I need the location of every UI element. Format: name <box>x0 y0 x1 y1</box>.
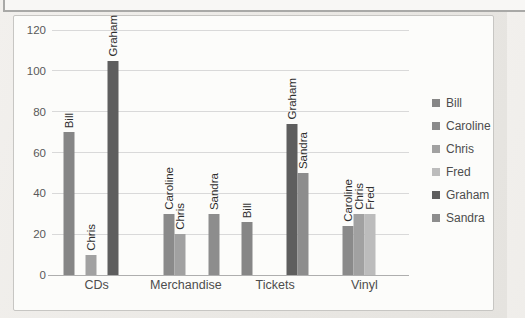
slot-chris-merchandise: Chris <box>175 30 186 275</box>
bar-bill-cds <box>63 132 74 275</box>
y-axis-label-120: 120 <box>16 22 46 38</box>
bar-bill-tickets <box>242 222 253 275</box>
legend-item-sandra: Sandra <box>432 211 491 225</box>
bar-chris-vinyl <box>353 214 364 275</box>
legend-label-graham: Graham <box>446 188 489 202</box>
legend-swatch-bill <box>432 99 440 107</box>
slot-graham-vinyl <box>376 30 387 275</box>
slot-chris-vinyl: Chris <box>353 30 364 275</box>
bar-groups: BillChrisGrahamCarolineChrisSandraBillGr… <box>52 30 409 275</box>
slot-bill-merchandise <box>152 30 163 275</box>
chart-frame[interactable]: 020406080100120 BillChrisGrahamCarolineC… <box>13 15 494 311</box>
plot-area: BillChrisGrahamCarolineChrisSandraBillGr… <box>52 30 409 275</box>
bar-label-graham-cds: Graham <box>107 15 120 57</box>
bar-label-fred-vinyl: Fred <box>363 186 376 210</box>
bar-chris-cds <box>86 255 97 275</box>
x-axis-label-vinyl: Vinyl <box>320 278 409 292</box>
legend-swatch-sandra <box>432 214 440 222</box>
category-group-merchandise: CarolineChrisSandra <box>141 30 230 275</box>
bar-caroline-vinyl <box>342 226 353 275</box>
legend-item-chris: Chris <box>432 142 491 156</box>
slot-fred-tickets <box>275 30 286 275</box>
legend-item-fred: Fred <box>432 165 491 179</box>
slot-chris-tickets <box>264 30 275 275</box>
bar-sandra-tickets <box>298 173 309 275</box>
bar-label-chris-cds: Chris <box>85 224 98 251</box>
slot-bill-cds: Bill <box>63 30 74 275</box>
legend-swatch-graham <box>432 191 440 199</box>
cropped-element-border <box>3 0 525 12</box>
slot-caroline-tickets <box>253 30 264 275</box>
slot-sandra-cds <box>119 30 130 275</box>
slot-caroline-merchandise: Caroline <box>164 30 175 275</box>
legend-label-caroline: Caroline <box>446 119 491 133</box>
bar-sandra-merchandise <box>208 214 219 275</box>
category-group-tickets: BillGrahamSandra <box>231 30 320 275</box>
legend-swatch-caroline <box>432 122 440 130</box>
y-axis-label-0: 0 <box>16 267 46 283</box>
legend-swatch-chris <box>432 145 440 153</box>
slot-fred-vinyl: Fred <box>364 30 375 275</box>
slot-fred-cds <box>97 30 108 275</box>
bar-graham-cds <box>108 61 119 275</box>
bar-fred-vinyl <box>364 214 375 275</box>
y-axis-label-20: 20 <box>16 226 46 242</box>
bar-label-graham-tickets: Graham <box>285 78 298 120</box>
slot-bill-vinyl <box>331 30 342 275</box>
y-axis-label-60: 60 <box>16 145 46 161</box>
bar-label-bill-cds: Bill <box>62 113 75 128</box>
bar-label-chris-merchandise: Chris <box>174 203 187 230</box>
slot-chris-cds: Chris <box>85 30 96 275</box>
legend-label-bill: Bill <box>446 96 462 110</box>
legend-label-fred: Fred <box>446 165 471 179</box>
y-axis-label-40: 40 <box>16 185 46 201</box>
x-axis-label-tickets: Tickets <box>231 278 320 292</box>
legend-swatch-fred <box>432 168 440 176</box>
legend-item-graham: Graham <box>432 188 491 202</box>
bar-label-sandra-merchandise: Sandra <box>207 173 220 210</box>
slot-sandra-tickets: Sandra <box>298 30 309 275</box>
slot-bill-tickets: Bill <box>242 30 253 275</box>
slot-caroline-vinyl: Caroline <box>342 30 353 275</box>
category-group-vinyl: CarolineChrisFred <box>320 30 409 275</box>
slot-graham-cds: Graham <box>108 30 119 275</box>
category-group-cds: BillChrisGraham <box>52 30 141 275</box>
y-axis-label-100: 100 <box>16 63 46 79</box>
slot-sandra-merchandise: Sandra <box>208 30 219 275</box>
x-axis-label-merchandise: Merchandise <box>141 278 230 292</box>
x-axis-label-cds: CDs <box>52 278 141 292</box>
x-axis-line <box>48 275 409 277</box>
legend-label-chris: Chris <box>446 142 474 156</box>
bar-label-bill-tickets: Bill <box>241 203 254 218</box>
legend-item-caroline: Caroline <box>432 119 491 133</box>
legend: BillCarolineChrisFredGrahamSandra <box>432 96 491 225</box>
y-axis-label-80: 80 <box>16 104 46 120</box>
slot-sandra-vinyl <box>387 30 398 275</box>
slot-graham-merchandise <box>197 30 208 275</box>
bar-chris-merchandise <box>175 234 186 275</box>
slot-fred-merchandise <box>186 30 197 275</box>
x-axis: CDsMerchandiseTicketsVinyl <box>52 278 409 292</box>
legend-label-sandra: Sandra <box>446 211 485 225</box>
legend-item-bill: Bill <box>432 96 491 110</box>
bar-label-sandra-tickets: Sandra <box>297 132 310 169</box>
